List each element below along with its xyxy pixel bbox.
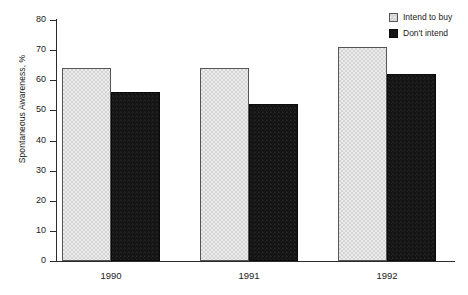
x-axis-label-1991: 1991 [199,270,299,281]
y-axis-line [56,19,57,262]
y-axis-tick [50,171,56,172]
legend-swatch-dont-intend-icon [389,29,398,38]
bar-1991-intend-to-buy [200,68,249,261]
x-axis-label-1992: 1992 [337,270,437,281]
bar-1990-dont-intend [111,92,160,261]
y-axis-tick-label: 60 [6,75,46,84]
legend-label-dont-intend: Don't intend [403,29,448,38]
y-axis-tick [50,261,56,262]
y-axis-tick [50,231,56,232]
legend: Intend to buy Don't intend [389,11,465,43]
legend-item: Don't intend [389,27,465,40]
y-axis-tick-label: 50 [6,105,46,114]
y-axis-tick [50,20,56,21]
plot-area: 80706050403020100 199019911992 [0,0,468,295]
y-axis-tick [50,110,56,111]
bar-1992-dont-intend [387,74,436,261]
bar-1992-intend-to-buy [338,47,387,261]
y-axis-tick-label: 80 [6,15,46,24]
y-axis-tick [50,201,56,202]
y-axis-tick-label: 70 [6,45,46,54]
y-axis-tick-label: 40 [6,136,46,145]
bar-1990-intend-to-buy [62,68,111,261]
y-axis-tick [50,80,56,81]
y-axis-tick-label: 20 [6,196,46,205]
x-axis-line [56,261,455,262]
y-axis-tick [50,141,56,142]
x-axis-label-1990: 1990 [61,270,161,281]
y-axis-tick [50,50,56,51]
y-axis-tick-label: 30 [6,166,46,175]
legend-label-intend-to-buy: Intend to buy [403,13,452,22]
legend-item: Intend to buy [389,11,465,24]
bar-1991-dont-intend [249,104,298,261]
bar-chart-figure: Spontaneous Awareness, % 807060504030201… [0,0,468,295]
y-axis-tick-label: 10 [6,226,46,235]
legend-swatch-intend-to-buy-icon [389,13,398,22]
y-axis-tick-label: 0 [6,256,46,265]
